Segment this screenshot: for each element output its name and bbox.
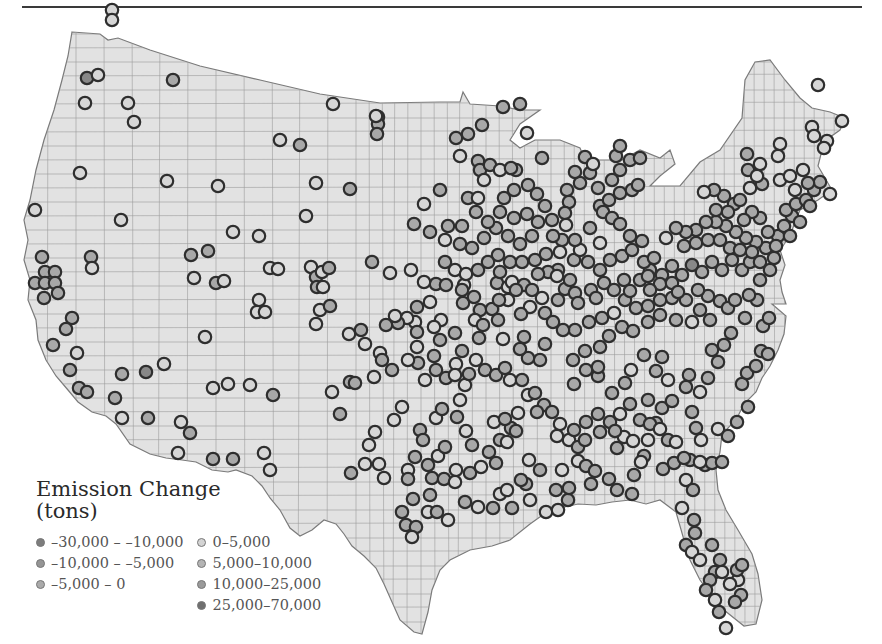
plant-marker (644, 284, 656, 296)
plant-marker (630, 302, 642, 314)
plant-marker (378, 472, 390, 484)
plant-marker (470, 206, 482, 218)
plant-marker (580, 416, 592, 428)
plant-marker (115, 214, 127, 226)
plant-marker (317, 281, 329, 293)
plant-marker (714, 554, 726, 566)
plant-marker (725, 327, 737, 339)
plant-marker (498, 192, 510, 204)
plant-marker (594, 426, 606, 438)
plant-marker (584, 222, 596, 234)
plant-marker (439, 234, 451, 246)
plant-marker (431, 506, 443, 518)
plant-marker (521, 127, 533, 139)
plant-marker (608, 284, 620, 296)
plant-marker (460, 268, 472, 280)
plant-marker (636, 235, 648, 247)
plant-marker (428, 350, 440, 362)
plant-marker (585, 478, 597, 490)
plant-marker (450, 464, 462, 476)
plant-marker (417, 434, 429, 446)
plant-marker (676, 502, 688, 514)
plant-marker (583, 316, 595, 328)
plant-marker (424, 296, 436, 308)
plant-marker (729, 294, 741, 306)
plant-marker (716, 264, 728, 276)
plant-marker (408, 218, 420, 230)
plant-marker (349, 377, 361, 389)
plant-marker (744, 182, 756, 194)
plant-marker (454, 394, 466, 406)
plant-marker (534, 464, 546, 476)
plant-marker (567, 354, 579, 366)
plant-marker (603, 330, 615, 342)
plant-marker (501, 484, 513, 496)
plant-marker (470, 354, 482, 366)
plant-marker (626, 488, 638, 500)
plant-marker (680, 381, 692, 393)
plant-marker (424, 489, 436, 501)
plant-marker (695, 434, 707, 446)
plant-marker (603, 473, 615, 485)
plant-marker (409, 451, 421, 463)
plant-marker (751, 170, 763, 182)
plant-marker (371, 128, 383, 140)
plant-marker (642, 434, 654, 446)
plant-marker (642, 394, 654, 406)
plant-marker (670, 436, 682, 448)
plant-marker (797, 164, 809, 176)
plant-marker (116, 368, 128, 380)
plant-marker (450, 132, 462, 144)
plant-marker (666, 260, 678, 272)
plant-marker (540, 506, 552, 518)
plant-marker (514, 343, 526, 355)
plant-marker (516, 256, 528, 268)
legend-item: –30,000 – –10,000 (36, 532, 183, 553)
plant-marker (648, 252, 660, 264)
plant-marker (47, 339, 59, 351)
plant-marker (539, 338, 551, 350)
plant-marker (207, 453, 219, 465)
plant-marker (592, 408, 604, 420)
plant-marker (554, 246, 566, 258)
plant-marker (526, 230, 538, 242)
plant-marker (698, 186, 710, 198)
plant-marker (344, 183, 356, 195)
plant-marker (466, 242, 478, 254)
plant-marker (494, 266, 506, 278)
plant-marker (483, 446, 495, 458)
legend-column-right: 0–5,0005,000–10,00010,000–25,00025,000–7… (197, 532, 321, 616)
plant-marker (614, 187, 626, 199)
plant-marker (71, 347, 83, 359)
plant-marker (60, 323, 72, 335)
plant-marker (334, 408, 346, 420)
plant-marker (546, 406, 558, 418)
plant-marker (501, 436, 513, 448)
plant-marker (472, 501, 484, 513)
plant-marker (716, 566, 728, 578)
plant-marker (122, 97, 134, 109)
plant-marker (532, 216, 544, 228)
plant-marker (506, 502, 518, 514)
legend-dot-icon (197, 601, 206, 610)
plant-marker (624, 398, 636, 410)
plant-marker (355, 324, 367, 336)
plant-marker (704, 314, 716, 326)
legend-label: 0–5,000 (212, 532, 270, 553)
plant-marker (418, 198, 430, 210)
legend-title: Emission Change (tons) (36, 478, 321, 522)
plant-marker (359, 458, 371, 470)
legend-label: –5,000 – 0 (51, 574, 125, 595)
plant-marker (784, 230, 796, 242)
plant-marker (804, 200, 816, 212)
plant-marker (440, 279, 452, 291)
plant-marker (739, 312, 751, 324)
plant-marker (722, 430, 734, 442)
plant-marker (594, 264, 606, 276)
plant-marker (734, 194, 746, 206)
plant-marker (405, 264, 417, 276)
plant-marker (514, 98, 526, 110)
plant-marker (477, 319, 489, 331)
plant-marker (770, 240, 782, 252)
plant-marker (678, 240, 690, 252)
